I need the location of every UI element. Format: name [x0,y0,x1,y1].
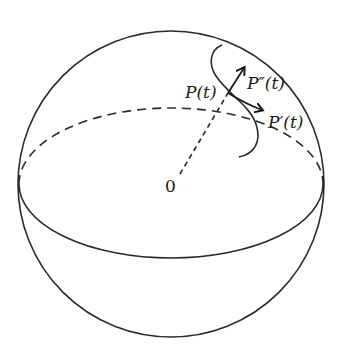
sphere-diagram: P(t) P″(t) P′(t) 0 [0,0,340,358]
radius-dashed [180,93,228,174]
label-point: P(t) [184,82,217,102]
label-first-derivative: P′(t) [267,112,303,132]
label-origin: 0 [165,176,176,196]
second-derivative-arrow [228,68,244,93]
surface-curve [211,45,258,157]
label-second-derivative: P″(t) [246,73,285,93]
